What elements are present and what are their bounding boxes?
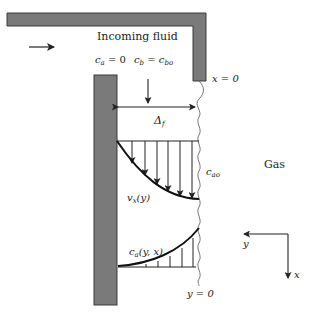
- y-zero-label: y = 0: [186, 288, 214, 299]
- gas-liquid-interface: [197, 81, 203, 286]
- film-thickness-label: Δf: [153, 114, 166, 128]
- incoming-fluid-label: Incoming fluid: [97, 30, 178, 43]
- velocity-label: vx(y): [127, 192, 150, 205]
- velocity-profile: [117, 141, 199, 199]
- axis-x-label: x: [294, 269, 300, 280]
- cb-cbo-label: cb = cbo: [134, 54, 173, 67]
- falling-film-diagram: Incoming fluid ca = 0 cb = cbo x = 0 Δf …: [0, 0, 311, 319]
- coordinate-axes: [244, 234, 288, 278]
- left-wall: [94, 75, 117, 305]
- axis-y-label: y: [242, 238, 249, 249]
- ca-zero-label: ca = 0: [95, 54, 126, 67]
- cao-label: cao: [206, 166, 220, 179]
- x-zero-label: x = 0: [212, 73, 239, 84]
- gas-label: Gas: [264, 158, 285, 171]
